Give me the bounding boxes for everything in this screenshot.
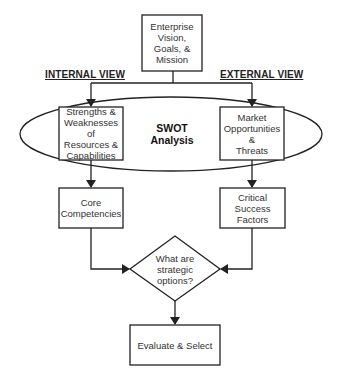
evaluate-select-label: Evaluate & Select [130,325,220,365]
internal-view-label: INTERNAL VIEW [45,69,125,80]
arrow-core-to-decision [91,228,129,269]
enterprise-label: Enterprise Vision, Goals, & Mission [142,15,202,71]
external-view-label: EXTERNAL VIEW [220,69,303,80]
critical-success-factors-label: Critical Success Factors [220,188,285,228]
decision-label: What are strategic options? [140,247,210,291]
opportunities-threats-label: Market Opportunities & Threats [220,107,284,160]
swot-analysis-label: SWOT Analysis [140,112,204,156]
arrow-csf-to-decision [221,228,252,269]
strengths-weaknesses-label: Strengths & Weaknesses of Resources & Ca… [59,107,123,160]
core-competencies-label: Core Competencies [59,188,123,228]
